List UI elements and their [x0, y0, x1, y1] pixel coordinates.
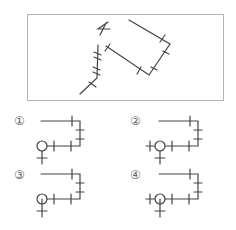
option-2-figure[interactable] — [146, 116, 202, 164]
diagram-canvas — [0, 0, 236, 230]
option-3-label[interactable]: ③ — [14, 168, 25, 182]
tick — [93, 72, 100, 75]
upper-path — [106, 20, 170, 75]
four-shaped-mark — [98, 22, 110, 35]
route-line — [159, 174, 198, 199]
tick — [93, 67, 100, 70]
route-line — [159, 121, 198, 146]
route-line — [41, 174, 80, 199]
option-4-figure[interactable] — [146, 169, 202, 217]
route-line — [41, 121, 80, 146]
destination-circle — [155, 141, 165, 151]
option-2-label[interactable]: ② — [130, 114, 141, 128]
option-1-figure[interactable] — [37, 116, 84, 164]
option-4-label[interactable]: ④ — [130, 168, 141, 182]
option-1-label[interactable]: ① — [14, 114, 25, 128]
option-3-figure[interactable] — [37, 169, 84, 217]
destination-circle — [37, 141, 47, 151]
question-figure — [80, 20, 170, 94]
